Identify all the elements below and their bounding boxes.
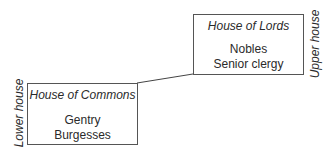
- house-of-lords-box: House of Lords Nobles Senior clergy: [193, 14, 304, 75]
- member-nobles: Nobles: [194, 42, 303, 56]
- upper-house-label: Upper house: [308, 9, 322, 79]
- member-burgesses: Burgesses: [28, 128, 137, 142]
- member-gentry: Gentry: [28, 113, 137, 127]
- house-of-commons-title: House of Commons: [28, 88, 137, 102]
- house-of-lords-title: House of Lords: [194, 19, 303, 33]
- member-senior-clergy: Senior clergy: [194, 57, 303, 71]
- house-of-commons-box: House of Commons Gentry Burgesses: [27, 83, 138, 145]
- lower-house-label: Lower house: [12, 78, 26, 148]
